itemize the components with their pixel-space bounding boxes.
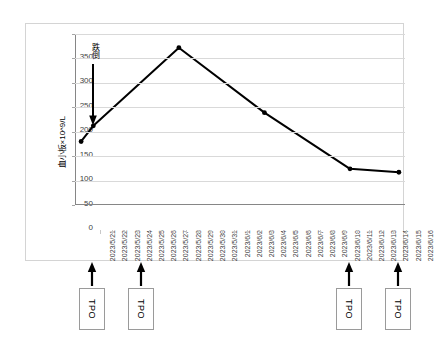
x-axis-tick [137,230,138,234]
y-axis-tick [72,58,75,59]
x-axis-tick [296,230,297,234]
tpo-up-arrow-icon [383,262,413,286]
tpo-label-box: TPO [79,288,105,330]
x-axis-tick-label: 2023/6/10 [354,230,361,261]
x-axis-tick [344,230,345,234]
tpo-label-text: TPO [87,299,97,319]
x-axis-tick [259,230,260,234]
x-axis-tick [234,230,235,234]
x-axis-tick-label: 2023/6/6 [305,230,312,257]
gridline [75,132,405,133]
x-axis-tick-label: 2023/5/26 [170,230,177,261]
tpo-label-box: TPO [385,288,411,330]
tpo-marker: TPO [383,262,413,330]
x-axis-tick [222,230,223,234]
x-axis-tick-label: 2023/5/30 [219,230,226,261]
x-axis-tick-label: 2023/6/8 [329,230,336,257]
tpo-marker: TPO [126,262,156,330]
data-point-marker [262,110,267,115]
tpo-label-box: TPO [336,288,362,330]
y-axis-tick [72,107,75,108]
x-axis-tick-label: 2023/6/1 [244,230,251,257]
x-axis-tick [271,230,272,234]
x-axis-tick-label: 2023/6/4 [280,230,287,257]
chart-frame: 050100150200250300350 血小板×10^9/L 跌倒 2023… [25,23,404,261]
x-axis-tick [149,230,150,234]
x-axis-tick-label: 2023/5/27 [182,230,189,261]
x-axis-tick [308,230,309,234]
x-axis-tick-label: 2023/6/2 [256,230,263,257]
gridline [75,156,405,157]
x-axis-tick [210,230,211,234]
x-axis-tick-label: 2023/6/12 [378,230,385,261]
data-point-marker [176,45,181,50]
gridline [75,58,405,59]
x-axis-tick-label: 2023/6/11 [366,230,373,261]
tpo-up-arrow-icon [126,262,156,286]
gridline [75,34,405,35]
tpo-marker: TPO [77,262,107,330]
x-axis-tick-label: 2023/6/7 [317,230,324,257]
tpo-up-arrow-icon [77,262,107,286]
x-axis-tick [381,230,382,234]
x-axis-tick-label: 2023/5/29 [207,230,214,261]
y-axis-tick-label: 0 [89,224,93,232]
x-axis-tick-label: 2023/5/23 [134,230,141,261]
x-axis-tick-label: 2023/6/14 [402,230,409,261]
x-axis-tick [112,230,113,234]
data-series-line [75,34,405,205]
y-axis-tick [72,205,75,206]
gridline [75,107,405,108]
x-axis-tick [393,230,394,234]
x-axis-tick [357,230,358,234]
x-axis-tick-label: 2023/5/31 [231,230,238,261]
x-axis-tick [198,230,199,234]
x-axis-tick [406,230,407,234]
x-axis-tick-label: 2023/6/15 [415,230,422,261]
y-axis-tick [72,34,75,35]
x-axis-tick-label: 2023/6/5 [292,230,299,257]
gridline [75,181,405,182]
series-line [81,48,399,173]
x-axis-tick-label: 2023/6/3 [268,230,275,257]
x-axis-tick [186,230,187,234]
x-axis-tick [418,230,419,234]
fall-annotation-label: 跌倒 [87,43,99,59]
tpo-up-arrow-icon [334,262,364,286]
fall-annotation-arrow [88,64,98,126]
x-axis-tick-label: 2023/6/16 [427,230,434,261]
plot-area [75,34,405,205]
y-axis-tick [72,156,75,157]
data-point-marker [348,166,353,171]
x-axis-tick-label: 2023/5/25 [158,230,165,261]
x-axis-tick [369,230,370,234]
x-axis-tick [332,230,333,234]
x-axis-tick-label: 2023/5/22 [121,230,128,261]
y-axis-tick [72,181,75,182]
data-point-marker [79,139,84,144]
y-axis-tick [72,132,75,133]
x-axis-tick-label: 2023/6/13 [390,230,397,261]
tpo-label-text: TPO [344,299,354,319]
x-axis-tick [173,230,174,234]
annotation-arrow-head [90,116,98,126]
x-axis-tick-label: 2023/5/21 [109,230,116,261]
x-axis-tick [320,230,321,234]
tpo-label-box: TPO [128,288,154,330]
x-axis-tick [161,230,162,234]
tpo-label-text: TPO [393,299,403,319]
y-axis-tick [72,83,75,84]
x-axis-tick [100,230,101,234]
y-axis-title: 血小板×10^9/L [56,116,67,168]
x-axis-tick-label: 2023/6/9 [341,230,348,257]
tpo-marker: TPO [334,262,364,330]
tpo-label-text: TPO [136,299,146,319]
x-axis-tick [124,230,125,234]
x-axis-tick-label: 2023/5/28 [195,230,202,261]
x-axis-tick [247,230,248,234]
x-axis-tick [283,230,284,234]
x-axis-tick-label: 2023/5/24 [146,230,153,261]
gridline [75,83,405,84]
data-point-marker [396,170,401,175]
